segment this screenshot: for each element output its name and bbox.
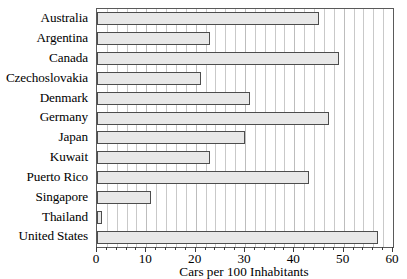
tick-mark-minor — [303, 247, 304, 250]
tick-mark-minor — [205, 247, 206, 250]
category-label: Japan — [0, 127, 92, 147]
category-label: Puerto Rico — [0, 167, 92, 187]
tick-mark-minor — [116, 247, 117, 250]
tick-mark-minor — [382, 247, 383, 250]
tick-mark-minor — [185, 247, 186, 250]
bar — [97, 131, 245, 144]
bar-slot — [97, 168, 393, 188]
tick-mark-minor — [155, 247, 156, 250]
bar — [97, 211, 102, 224]
category-label: Argentina — [0, 28, 92, 48]
plot-area — [96, 8, 394, 248]
bar — [97, 171, 309, 184]
category-label: Czechoslovakia — [0, 67, 92, 87]
bar — [97, 112, 329, 125]
bar-slot — [97, 29, 393, 49]
tick-mark-minor — [274, 247, 275, 250]
bar-slot — [97, 187, 393, 207]
category-label: Canada — [0, 48, 92, 68]
category-label: Kuwait — [0, 147, 92, 167]
bar — [97, 12, 319, 25]
tick-mark-minor — [283, 247, 284, 250]
tick-mark-minor — [372, 247, 373, 250]
tick-mark-minor — [126, 247, 127, 250]
bar — [97, 72, 201, 85]
bar-chart: AustraliaArgentinaCanadaCzechoslovakiaDe… — [0, 0, 407, 279]
x-tick-label: 50 — [336, 252, 349, 265]
x-tick-label: 10 — [139, 252, 152, 265]
x-tick-label: 0 — [93, 252, 100, 265]
tick-mark-minor — [106, 247, 107, 250]
tick-mark-minor — [313, 247, 314, 250]
bar — [97, 191, 151, 204]
tick-mark-minor — [333, 247, 334, 250]
bar-slot — [97, 49, 393, 69]
category-label: Germany — [0, 107, 92, 127]
category-axis: AustraliaArgentinaCanadaCzechoslovakiaDe… — [0, 8, 92, 246]
tick-mark-minor — [234, 247, 235, 250]
bars-layer — [97, 9, 393, 247]
category-label: Denmark — [0, 87, 92, 107]
bar-slot — [97, 9, 393, 29]
category-label: Australia — [0, 8, 92, 28]
bar — [97, 32, 210, 45]
category-label: Singapore — [0, 186, 92, 206]
tick-mark-minor — [323, 247, 324, 250]
tick-mark-minor — [224, 247, 225, 250]
category-label: United States — [0, 226, 92, 246]
tick-mark-minor — [214, 247, 215, 250]
bar-slot — [97, 128, 393, 148]
x-tick-label: 60 — [385, 252, 398, 265]
bar-slot — [97, 227, 393, 247]
tick-mark-minor — [165, 247, 166, 250]
bar — [97, 151, 210, 164]
bar — [97, 231, 378, 244]
tick-mark-minor — [254, 247, 255, 250]
tick-mark-minor — [175, 247, 176, 250]
bar-slot — [97, 148, 393, 168]
bar-slot — [97, 68, 393, 88]
tick-mark-minor — [362, 247, 363, 250]
x-axis-title: Cars per 100 Inhabitants — [96, 265, 392, 278]
bar-slot — [97, 88, 393, 108]
bar — [97, 92, 250, 105]
bar-slot — [97, 108, 393, 128]
tick-mark-minor — [264, 247, 265, 250]
tick-mark-minor — [135, 247, 136, 250]
bar — [97, 52, 339, 65]
tick-mark-minor — [353, 247, 354, 250]
bar-slot — [97, 207, 393, 227]
category-label: Thailand — [0, 206, 92, 226]
